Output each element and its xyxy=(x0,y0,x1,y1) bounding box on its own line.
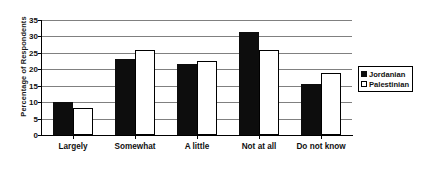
bar-palestinian-do-not-know xyxy=(321,73,341,135)
legend: JordanianPalestinian xyxy=(358,66,413,92)
x-axis-tick-label: Do not know xyxy=(296,142,345,151)
legend-swatch-icon xyxy=(361,81,367,87)
x-axis-tick-mark xyxy=(321,135,322,139)
x-axis-tick-label: Somewhat xyxy=(115,142,156,151)
legend-item: Jordanian xyxy=(361,69,409,79)
bar-chart: Percentage of Respondents 05101520253035… xyxy=(0,0,430,173)
legend-item: Palestinian xyxy=(361,79,409,89)
bar-jordanian-largely xyxy=(53,102,73,135)
bar-jordanian-do-not-know xyxy=(301,84,321,135)
legend-label: Palestinian xyxy=(369,80,409,89)
bar-jordanian-somewhat xyxy=(115,59,135,135)
bar-palestinian-not-at-all xyxy=(259,50,279,135)
bar-palestinian-a-little xyxy=(197,61,217,135)
y-axis-tick-label: 10 xyxy=(10,98,38,107)
bar-group xyxy=(239,20,279,135)
bar-group xyxy=(115,20,155,135)
x-axis-tick-mark xyxy=(259,135,260,139)
bar-jordanian-not-at-all xyxy=(239,32,259,136)
legend-swatch-icon xyxy=(361,71,367,77)
y-axis-tick-labels: 05101520253035 xyxy=(0,20,38,135)
y-axis-tick-label: 20 xyxy=(10,65,38,74)
bar-palestinian-somewhat xyxy=(135,50,155,135)
bar-palestinian-largely xyxy=(73,108,93,135)
x-axis-tick-label: Largely xyxy=(58,142,87,151)
y-axis-tick-label: 35 xyxy=(10,16,38,25)
y-axis-tick-label: 5 xyxy=(10,114,38,123)
y-axis-tick-label: 30 xyxy=(10,32,38,41)
y-axis-tick-label: 25 xyxy=(10,48,38,57)
bar-group xyxy=(301,20,341,135)
bar-group xyxy=(53,20,93,135)
legend-label: Jordanian xyxy=(369,70,405,79)
y-axis-tick-label: 0 xyxy=(10,131,38,140)
bar-jordanian-a-little xyxy=(177,64,197,135)
x-axis-tick-mark xyxy=(197,135,198,139)
x-axis-tick-labels: LargelySomewhatA littleNot at allDo not … xyxy=(42,142,352,158)
x-axis-tick-label: Not at all xyxy=(242,142,277,151)
x-axis-tick-label: A little xyxy=(185,142,210,151)
bar-group xyxy=(177,20,217,135)
x-axis-tick-mark xyxy=(73,135,74,139)
x-axis-tick-mark xyxy=(135,135,136,139)
y-axis-tick-label: 15 xyxy=(10,81,38,90)
plot-area xyxy=(42,20,352,135)
